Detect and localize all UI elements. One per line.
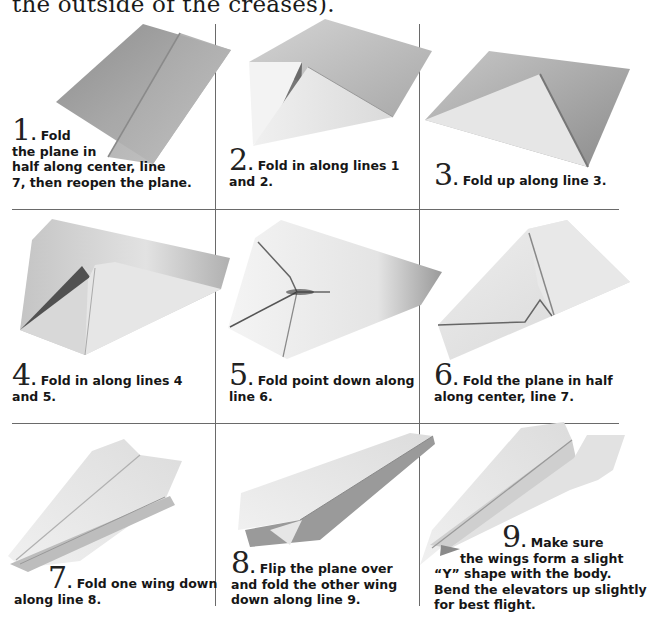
- step-7-text-line-1: Fold one wing down: [77, 576, 218, 591]
- step-4-caption: 4. Fold in along lines 4 and 5.: [12, 362, 182, 404]
- step-9-number: 9: [502, 519, 521, 554]
- step-9-text-line-1: Make sure: [531, 535, 604, 550]
- step-1-text-line-3: half along center, line: [12, 159, 192, 175]
- step-1-text-line-1: Fold: [41, 128, 71, 143]
- step-8-text-line-3: down along line 9.: [231, 592, 397, 608]
- step-8-plane: [238, 433, 435, 547]
- step-4-number: 4: [12, 357, 31, 392]
- step-3-caption: 3. Fold up along line 3.: [434, 162, 606, 189]
- step-5-number: 5: [229, 357, 248, 392]
- step-2-text-line-2: and 2.: [229, 174, 399, 190]
- step-8-number: 8: [231, 545, 250, 580]
- step-4-text-line-2: and 5.: [12, 389, 182, 405]
- step-3-number: 3: [434, 157, 453, 192]
- step-1-text-line-4: 7, then reopen the plane.: [12, 175, 192, 191]
- step-4-sheet: [20, 219, 230, 355]
- step-7-text-line-2: along line 8.: [14, 592, 217, 608]
- step-5-caption: 5. Fold point down along line 6.: [229, 362, 415, 404]
- step-2-sheet: [249, 19, 432, 146]
- step-4-text-line-1: Fold in along lines 4: [41, 373, 183, 388]
- step-6-number: 6: [434, 357, 453, 392]
- step-3-sheet: [425, 51, 630, 167]
- step-8-text-line-2: and fold the other wing: [231, 577, 397, 593]
- step-6-text-line-1: Fold the plane in half: [463, 373, 613, 388]
- step-5-sheet: [228, 220, 442, 359]
- step-3-text-line-1: Fold up along line 3.: [463, 173, 607, 188]
- step-9-caption: 9. Make sure the wings form a slight “Y”…: [434, 524, 647, 613]
- step-1-text-line-2: the plane in: [12, 144, 192, 160]
- step-2-caption: 2. Fold in along lines 1 and 2.: [229, 147, 399, 189]
- step-2-number: 2: [229, 142, 248, 177]
- step-8-text-line-1: Flip the plane over: [260, 561, 393, 576]
- step-7-plane: [8, 439, 182, 572]
- step-6-sheet: [438, 220, 630, 360]
- step-6-text-line-2: along center, line 7.: [434, 389, 613, 405]
- step-5-text-line-1: Fold point down along: [258, 373, 415, 388]
- step-9-text-line-3: “Y” shape with the body.: [434, 566, 647, 582]
- step-2-text-line-1: Fold in along lines 1: [258, 158, 400, 173]
- step-6-caption: 6. Fold the plane in half along center, …: [434, 362, 613, 404]
- step-8-caption: 8. Flip the plane over and fold the othe…: [231, 550, 397, 608]
- step-1-number: 1: [12, 112, 31, 147]
- step-1-caption: 1. Fold the plane in half along center, …: [12, 117, 192, 190]
- step-9-text-line-4: Bend the elevators up slightly: [434, 582, 647, 598]
- step-5-text-line-2: line 6.: [229, 389, 415, 405]
- step-7-caption: 7. Fold one wing down along line 8.: [14, 565, 217, 607]
- step-9-text-line-2: the wings form a slight: [434, 551, 647, 567]
- step-9-text-line-5: for best flight.: [434, 597, 647, 613]
- step-7-number: 7: [48, 560, 67, 595]
